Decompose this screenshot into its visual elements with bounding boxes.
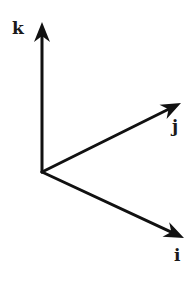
axes-group: kji xyxy=(12,18,184,265)
axis-k-label: k xyxy=(12,18,25,38)
axis-i-line xyxy=(42,172,171,232)
axis-i: i xyxy=(42,172,184,265)
axis-k: k xyxy=(12,18,50,172)
axis-i-label: i xyxy=(174,245,181,265)
coordinate-axes-diagram: kji xyxy=(0,0,195,284)
axis-j: j xyxy=(42,103,181,172)
axis-j-label: j xyxy=(170,116,178,136)
axis-j-line xyxy=(42,109,168,172)
